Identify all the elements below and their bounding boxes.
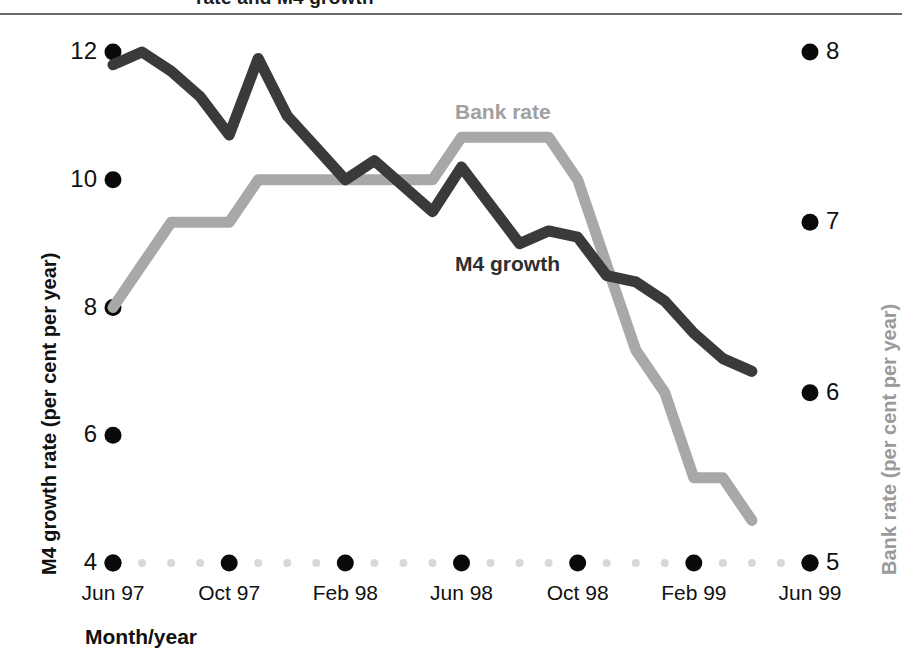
chart-page: rate and M4 growth 46810125678 Jun 97Oct…	[0, 0, 902, 663]
y-left-tick-label: 12	[57, 37, 97, 65]
x-major-tick-dot	[569, 555, 586, 572]
x-major-tick-dot	[453, 555, 470, 572]
x-minor-tick-dot	[138, 559, 146, 567]
x-minor-tick-dot	[487, 559, 495, 567]
x-major-tick-dot	[685, 555, 702, 572]
x-minor-tick-dot	[283, 559, 291, 567]
x-axis-tick-label: Feb 99	[634, 581, 754, 605]
y-left-tick-label: 4	[57, 548, 97, 576]
y-right-tick-dot	[802, 214, 819, 231]
x-major-tick-dot	[337, 555, 354, 572]
x-axis-tick-label: Jun 98	[402, 581, 522, 605]
x-minor-tick-dot	[196, 559, 204, 567]
x-minor-tick-dot	[603, 559, 611, 567]
series-label-bank-rate: Bank rate	[455, 100, 551, 124]
chart-plot-area	[0, 0, 902, 663]
x-minor-tick-dot	[661, 559, 669, 567]
x-minor-tick-dot	[167, 559, 175, 567]
x-minor-tick-dot	[428, 559, 436, 567]
series-label-m4-growth: M4 growth	[455, 252, 560, 276]
x-minor-tick-dot	[632, 559, 640, 567]
x-axis-tick-label: Jun 99	[750, 581, 870, 605]
y-left-tick-dot	[105, 427, 122, 444]
y-left-tick-label: 10	[57, 165, 97, 193]
x-minor-tick-dot	[719, 559, 727, 567]
y-right-tick-label: 5	[826, 548, 839, 576]
y-right-tick-dot	[802, 384, 819, 401]
y-right-tick-dot	[802, 44, 819, 61]
x-minor-tick-dot	[312, 559, 320, 567]
x-minor-tick-dot	[254, 559, 262, 567]
x-minor-tick-dot	[370, 559, 378, 567]
x-major-tick-dot	[221, 555, 238, 572]
y-axis-right-title: Bank rate (per cent per year)	[878, 304, 901, 575]
x-axis-tick-label: Feb 98	[285, 581, 405, 605]
x-major-tick-dots	[105, 555, 819, 572]
y-left-tick-label: 6	[57, 420, 97, 448]
y-right-tick-label: 6	[826, 378, 839, 406]
y-axis-left-title: M4 growth rate (per cent per year)	[38, 253, 61, 575]
chart-svg	[0, 0, 902, 663]
x-axis-title: Month/year	[85, 625, 197, 649]
x-minor-tick-dot	[545, 559, 553, 567]
x-major-tick-dot	[105, 555, 122, 572]
y-right-tick-label: 8	[826, 37, 839, 65]
x-axis-tick-label: Oct 98	[518, 581, 638, 605]
x-axis-tick-label: Oct 97	[169, 581, 289, 605]
series-line-bank-rate	[113, 137, 752, 520]
series-line-m4-growth	[113, 52, 752, 371]
x-minor-tick-dot	[748, 559, 756, 567]
y-left-tick-dot	[105, 171, 122, 188]
x-axis-tick-label: Jun 97	[53, 581, 173, 605]
x-major-tick-dot	[802, 555, 819, 572]
x-minor-tick-dot	[399, 559, 407, 567]
y-left-tick-label: 8	[57, 293, 97, 321]
y-right-tick-label: 7	[826, 207, 839, 235]
x-minor-tick-dot	[777, 559, 785, 567]
x-minor-tick-dot	[516, 559, 524, 567]
y-right-tick-dots	[802, 44, 819, 572]
